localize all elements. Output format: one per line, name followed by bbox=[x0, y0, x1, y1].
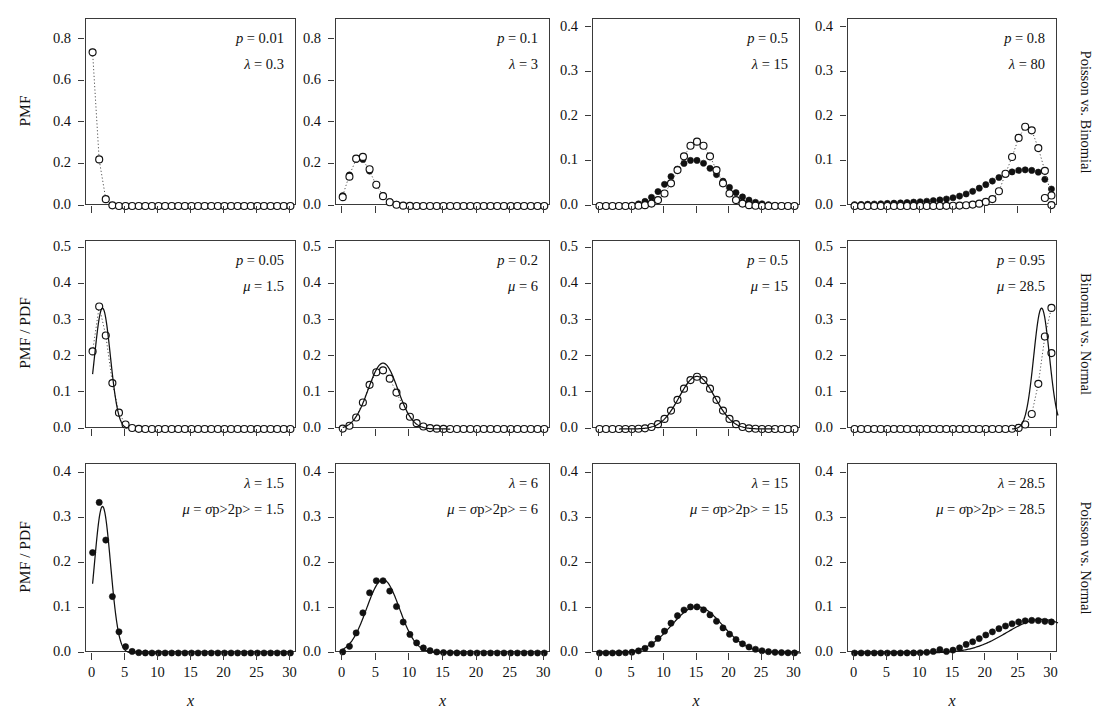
plot-canvas-r2c4 bbox=[848, 241, 1058, 429]
data-point-filled bbox=[228, 650, 234, 656]
x-axis-tick bbox=[1017, 653, 1018, 660]
data-point-open bbox=[910, 426, 917, 433]
data-point-open bbox=[700, 142, 707, 149]
y-axis-tick-label: 0.0 bbox=[277, 196, 321, 213]
panel-annotation: λ = 1.5 bbox=[146, 475, 284, 492]
x-axis-tick bbox=[408, 429, 409, 436]
y-axis-tick bbox=[328, 355, 334, 356]
y-axis-tick-label: 0.3 bbox=[277, 508, 321, 525]
data-point-open bbox=[995, 188, 1002, 195]
panel-annotation: μ = 6 bbox=[400, 278, 538, 295]
y-axis-tick bbox=[78, 428, 84, 429]
data-point-open bbox=[109, 202, 116, 209]
data-point-open bbox=[1028, 411, 1035, 418]
y-axis-tick-label: 0.0 bbox=[277, 643, 321, 660]
x-axis-tick bbox=[341, 653, 342, 660]
data-point-filled bbox=[930, 648, 936, 654]
x-axis-tick-label: 30 bbox=[1030, 664, 1070, 681]
y-axis-tick-label: 0.4 bbox=[534, 274, 578, 291]
y-axis-tick-label: 0.1 bbox=[789, 598, 833, 615]
panel-annotation: λ = 80 bbox=[907, 56, 1045, 73]
panel-annotation: λ = 28.5 bbox=[907, 475, 1045, 492]
y-axis-tick-label: 0.2 bbox=[277, 154, 321, 171]
y-axis-tick bbox=[328, 80, 334, 81]
data-point-filled bbox=[261, 650, 267, 656]
y-axis-tick-label: 0.1 bbox=[789, 383, 833, 400]
panel-annotation: μ = 28.5 bbox=[907, 278, 1045, 295]
data-point-filled bbox=[943, 196, 949, 202]
x-axis-tick bbox=[919, 653, 920, 660]
data-point-filled bbox=[983, 632, 989, 638]
data-point-open bbox=[897, 426, 904, 433]
y-axis-tick bbox=[585, 71, 591, 72]
plot-canvas-r1c4 bbox=[848, 19, 1058, 206]
data-point-open bbox=[726, 190, 733, 197]
y-axis-tick-label: 0.5 bbox=[789, 238, 833, 255]
y-axis-tick bbox=[78, 562, 84, 563]
x-axis-tick bbox=[476, 653, 477, 660]
data-point-open bbox=[208, 203, 215, 210]
data-point-open bbox=[963, 202, 970, 209]
y-axis-tick-label: 0.0 bbox=[534, 643, 578, 660]
x-axis-tick bbox=[375, 653, 376, 660]
y-axis-tick-label: 0.4 bbox=[789, 274, 833, 291]
data-point-open bbox=[976, 426, 983, 433]
data-point-open bbox=[655, 197, 662, 204]
data-point-open bbox=[201, 203, 208, 210]
y-axis-tick-label: 0.2 bbox=[789, 107, 833, 124]
data-point-open bbox=[467, 203, 474, 210]
figure-panel-grid: 0.00.20.40.60.8PMFp = 0.01λ = 0.30.00.20… bbox=[0, 0, 1106, 728]
data-point-open bbox=[467, 426, 474, 433]
data-point-filled bbox=[739, 194, 745, 200]
x-axis-tick bbox=[1017, 206, 1018, 213]
data-point-open bbox=[228, 426, 235, 433]
x-axis-tick bbox=[761, 653, 762, 660]
data-point-open bbox=[923, 203, 930, 210]
data-point-open bbox=[995, 426, 1002, 433]
data-point-filled bbox=[655, 188, 661, 194]
data-point-filled bbox=[694, 157, 700, 163]
x-axis-tick bbox=[728, 206, 729, 213]
data-point-filled bbox=[983, 182, 989, 188]
data-point-open bbox=[148, 426, 155, 433]
y-axis-tick bbox=[840, 283, 846, 284]
x-axis-tick bbox=[598, 206, 599, 213]
x-axis-tick bbox=[631, 429, 632, 436]
y-axis-tick-label: 0.5 bbox=[277, 238, 321, 255]
data-point-filled bbox=[976, 636, 982, 642]
data-point-open bbox=[234, 203, 241, 210]
connector-line bbox=[855, 308, 1052, 429]
data-point-open bbox=[1002, 425, 1009, 432]
panel-annotation: p = 0.2 bbox=[400, 252, 538, 269]
x-axis-tick bbox=[886, 206, 887, 213]
data-point-open bbox=[129, 203, 136, 210]
y-axis-tick-label: 0.6 bbox=[277, 71, 321, 88]
data-point-open bbox=[228, 203, 235, 210]
x-axis-tick bbox=[157, 429, 158, 436]
x-axis-tick bbox=[663, 653, 664, 660]
y-axis-tick bbox=[328, 283, 334, 284]
data-point-filled bbox=[661, 181, 667, 187]
y-axis-tick bbox=[585, 562, 591, 563]
data-point-filled bbox=[96, 499, 102, 505]
y-axis-tick bbox=[78, 205, 84, 206]
y-axis-tick bbox=[585, 652, 591, 653]
data-point-open bbox=[261, 203, 268, 210]
data-point-open bbox=[969, 426, 976, 433]
data-point-filled bbox=[521, 650, 527, 656]
x-axis-tick bbox=[442, 206, 443, 213]
connector-line bbox=[600, 142, 795, 206]
panel-annotation: λ = 15 bbox=[650, 475, 788, 492]
data-point-open bbox=[1035, 145, 1042, 152]
x-axis-tick bbox=[442, 429, 443, 436]
data-point-open bbox=[247, 426, 254, 433]
data-point-open bbox=[453, 203, 460, 210]
panel-annotation: μ = 1.5 bbox=[146, 278, 284, 295]
row-label-2: Poisson vs. Normal bbox=[1077, 501, 1094, 614]
data-point-open bbox=[858, 203, 865, 210]
data-point-open bbox=[447, 203, 454, 210]
data-point-open bbox=[877, 203, 884, 210]
data-point-open bbox=[1002, 170, 1009, 177]
data-point-open bbox=[267, 203, 274, 210]
row-label-1: Binomial vs. Normal bbox=[1077, 273, 1094, 395]
